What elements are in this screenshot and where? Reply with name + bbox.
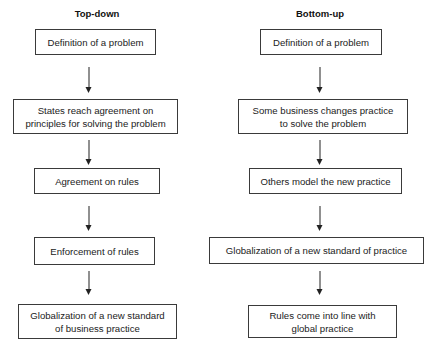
bottom-up-step-3: Others model the new practice [249, 168, 402, 194]
bottom-up-step-5: Rules come into line with global practic… [248, 305, 397, 338]
arrow-down-icon [317, 206, 324, 231]
top-down-step-4: Enforcement of rules [34, 237, 155, 265]
step-label: Agreement on rules [55, 175, 139, 188]
step-label: Globalization of a new standard of pract… [226, 244, 407, 257]
top-down-step-3: Agreement on rules [34, 168, 160, 194]
arrow-down-icon [86, 206, 93, 231]
top-down-step-2: States reach agreement on principles for… [13, 99, 178, 134]
step-label: Some business changes practice to solve … [253, 104, 394, 130]
bottom-up-step-4: Globalization of a new standard of pract… [209, 237, 424, 264]
step-label: States reach agreement on principles for… [25, 104, 165, 130]
top-down-step-5: Globalization of a new standard of busin… [18, 304, 177, 339]
step-label: Rules come into line with global practic… [269, 309, 375, 335]
step-label: Globalization of a new standard of busin… [30, 309, 164, 335]
bottom-up-title: Bottom-up [296, 8, 344, 19]
bottom-up-step-1: Definition of a problem [260, 29, 382, 55]
bottom-up-step-2: Some business changes practice to solve … [238, 99, 408, 134]
step-label: Enforcement of rules [50, 245, 139, 258]
arrow-down-icon [317, 140, 324, 165]
step-label: Others model the new practice [260, 175, 390, 188]
arrow-down-icon [86, 271, 93, 295]
arrow-down-icon [86, 140, 93, 165]
top-down-title: Top-down [75, 8, 120, 19]
step-label: Definition of a problem [273, 36, 369, 49]
arrow-down-icon [317, 67, 324, 93]
arrow-down-icon [86, 67, 93, 93]
step-label: Definition of a problem [48, 36, 144, 49]
top-down-step-1: Definition of a problem [35, 29, 156, 55]
arrow-down-icon [317, 271, 324, 295]
